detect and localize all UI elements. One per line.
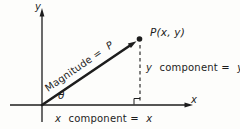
y-component-label: y component = y bbox=[145, 62, 240, 73]
point-label: P(x, y) bbox=[150, 26, 185, 38]
x-axis-label: x bbox=[190, 94, 197, 105]
x-component-label: x component = x bbox=[54, 113, 152, 124]
y-axis-label: y bbox=[34, 1, 42, 12]
diagram-canvas: y x P(x, y) Magnitude = P θ y component … bbox=[0, 0, 240, 129]
right-angle-marker bbox=[134, 99, 140, 105]
vector-components-diagram: y x P(x, y) Magnitude = P θ y component … bbox=[0, 0, 240, 129]
theta-label: θ bbox=[58, 89, 65, 101]
point-dot bbox=[137, 36, 143, 42]
magnitude-label: Magnitude = P bbox=[43, 39, 116, 94]
